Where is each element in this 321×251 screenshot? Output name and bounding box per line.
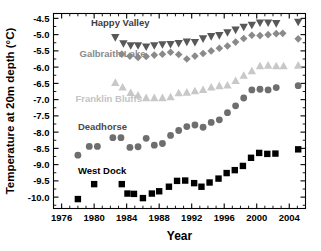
data-point [191,180,197,186]
data-point [140,195,146,201]
data-point [174,178,180,184]
data-point [223,170,229,176]
data-point [200,124,207,131]
data-point [192,122,199,129]
data-point [215,175,221,181]
x-tick-label: 1988 [149,212,170,223]
series-label-deadhorse: Deadhorse [78,121,127,132]
data-point [264,151,270,157]
y-tick-label: -10.0 [28,192,50,203]
data-point [156,188,162,194]
data-point [167,132,174,139]
data-point [208,119,215,126]
series-label-galbraith-lake: Galbraith Lake [80,48,146,59]
y-tick-label: -7.5 [33,110,50,121]
temperature-scatter-chart: 19761980198419881992199620002004 -4.5-5.… [0,0,321,251]
data-point [143,135,150,142]
y-tick-label: -8.5 [33,143,50,154]
chart-figure: 19761980198419881992199620002004 -4.5-5.… [0,0,321,251]
data-point [206,179,212,185]
data-point [91,181,97,187]
data-point [248,86,255,93]
data-point [124,190,130,196]
x-tick-label: 1992 [181,212,202,223]
series-label-franklin-bluffs: Franklin Bluffs [75,93,142,104]
data-point [127,144,134,151]
y-tick-label: -4.5 [33,13,50,24]
data-point [109,134,116,141]
y-tick-label: -7.0 [33,94,49,105]
data-point [273,84,280,91]
y-tick-label: -6.5 [33,78,50,89]
data-point [151,142,158,149]
data-point [119,181,125,187]
data-point [295,82,302,89]
data-point [74,152,81,159]
data-point [175,127,182,134]
y-tick-label: -5.0 [33,29,49,40]
data-point [224,109,231,116]
data-point [232,102,239,109]
x-axis-title: Year [167,229,193,243]
x-tick-label: 1980 [84,212,105,223]
data-point [240,163,246,169]
data-point [94,143,101,150]
data-point [216,116,223,123]
x-tick-label: 2000 [246,212,267,223]
x-tick-label: 2004 [279,212,301,223]
y-tick-label: -6.0 [33,62,49,73]
data-point [257,86,264,93]
y-tick-label: -5.5 [33,45,50,56]
y-tick-label: -9.5 [33,175,50,186]
data-point [75,196,81,202]
x-tick-label: 1996 [214,212,235,223]
data-point [86,143,93,150]
data-point [183,123,190,130]
data-point [118,134,125,141]
data-point [295,146,301,152]
data-point [182,177,188,183]
x-tick-label: 1984 [116,212,138,223]
y-tick-label: -8.0 [33,127,49,138]
data-point [240,95,247,102]
data-point [166,184,172,190]
data-point [265,86,272,93]
data-point [248,155,254,161]
y-axis-title: Temperature at 20m depth (°C) [4,27,16,194]
series-label-west-dock: West Dock [78,165,127,176]
data-point [256,150,262,156]
x-tick-label: 1976 [51,212,72,223]
data-point [135,143,142,150]
y-tick-label: -9.0 [33,159,49,170]
data-point [131,191,137,197]
data-point [159,140,166,147]
series-label-happy-valley: Happy Valley [91,17,150,28]
data-point [149,190,155,196]
data-point [272,150,278,156]
data-point [232,167,238,173]
data-point [198,184,204,190]
